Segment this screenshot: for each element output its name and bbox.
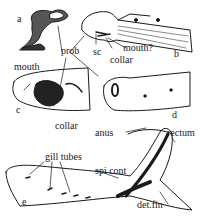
label-sc: sc [93,47,101,57]
label-collar-b: collar [110,55,133,65]
label-collar-c: collar [55,121,78,131]
label-anus: anus [95,128,113,138]
panel-label-a: a [17,14,21,24]
panel-d-specimen [103,72,190,111]
panel-label-c: c [16,105,20,115]
label-mouth-question: mouth? [123,43,153,53]
label-det-fin: det.fin [137,200,163,210]
panel-label-e: e [22,197,26,207]
label-mouth-c: mouth [14,62,40,72]
label-rectum: rectum [167,128,195,138]
label-prob: prob [61,46,79,56]
label-spi-cont: spi cont [95,166,126,176]
panel-label-d: d [172,110,177,120]
panel-label-b: b [174,49,179,59]
label-gill-tubes: gill tubes [45,152,82,162]
